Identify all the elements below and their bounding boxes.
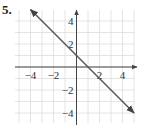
x-tick-label: −4 xyxy=(25,69,37,81)
line-y-equals-neg-x-plus-1 xyxy=(31,10,135,114)
y-tick-label: −4 xyxy=(62,107,74,119)
y-tick-label: −2 xyxy=(62,84,74,96)
plotted-line xyxy=(31,10,135,114)
coordinate-plane: −4−22442−2−4 xyxy=(0,0,144,131)
x-tick-label: 4 xyxy=(120,69,126,81)
x-tick-label: −2 xyxy=(48,69,60,81)
axes xyxy=(15,10,137,125)
y-tick-label: 4 xyxy=(68,15,74,27)
